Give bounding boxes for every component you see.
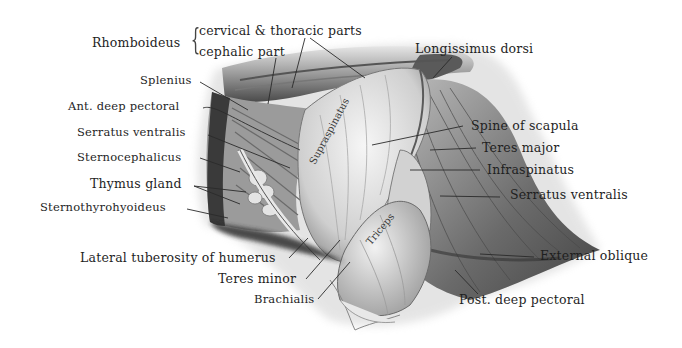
label-thymus-gland: Thymus gland (90, 178, 182, 191)
label-rhomboideus-cephalic: cephalic part (199, 46, 285, 59)
label-spine-of-scapula: Spine of scapula (471, 120, 579, 133)
label-external-oblique: External oblique (540, 250, 648, 263)
label-longissimus-dorsi: Longissimus dorsi (415, 43, 533, 56)
label-splenius: Splenius (140, 75, 192, 87)
label-rhomboideus-cervical-thoracic: cervical & thoracic parts (199, 25, 362, 38)
label-post-deep-pectoral: Post. deep pectoral (459, 294, 585, 307)
label-lateral-tuberosity-of-humerus: Lateral tuberosity of humerus (80, 252, 276, 265)
label-ant-deep-pectoral: Ant. deep pectoral (68, 101, 179, 113)
label-serratus-ventralis-right: Serratus ventralis (510, 189, 628, 202)
label-brachialis: Brachialis (254, 294, 314, 306)
label-teres-major: Teres major (482, 142, 559, 155)
anatomy-figure: Rhomboideus { cervical & thoracic parts … (0, 0, 682, 348)
label-rhomboideus: Rhomboideus (92, 37, 180, 50)
label-serratus-ventralis-left: Serratus ventralis (77, 127, 186, 139)
label-teres-minor: Teres minor (218, 273, 296, 286)
label-infraspinatus: Infraspinatus (487, 164, 574, 177)
label-sternocephalicus: Sternocephalicus (77, 152, 181, 164)
label-sternothyrohyoideus: Sternothyrohyoideus (40, 202, 166, 214)
